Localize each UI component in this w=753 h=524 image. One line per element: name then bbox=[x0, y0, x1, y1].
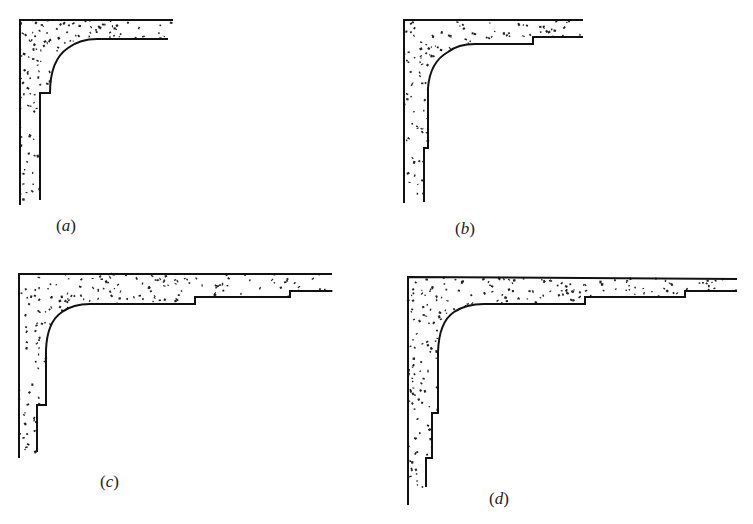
panel-a-inner-edge bbox=[40, 39, 168, 200]
panel-b-caption-letter: b bbox=[461, 219, 470, 238]
panel-c-inner-edge bbox=[37, 291, 332, 452]
panel-b-caption: (b) bbox=[455, 219, 475, 239]
panel-a-lining-region bbox=[20, 20, 173, 205]
panel-d bbox=[407, 276, 738, 505]
panel-b bbox=[403, 20, 583, 203]
panel-d-caption-letter: d bbox=[495, 489, 504, 508]
figure-canvas bbox=[0, 0, 753, 524]
panel-d-inner-edge bbox=[426, 291, 737, 487]
panel-c-caption-letter: c bbox=[106, 472, 114, 491]
panel-d-caption: (d) bbox=[489, 489, 509, 509]
panel-d-lining-region bbox=[408, 277, 737, 505]
panel-c bbox=[18, 272, 333, 458]
panel-a bbox=[19, 19, 173, 205]
panel-a-caption-letter: a bbox=[62, 216, 71, 235]
panel-b-inner-edge bbox=[424, 37, 583, 202]
panel-c-caption: (c) bbox=[100, 472, 119, 492]
panel-a-caption: (a) bbox=[56, 216, 76, 236]
panel-d-outer-edge bbox=[408, 277, 737, 505]
